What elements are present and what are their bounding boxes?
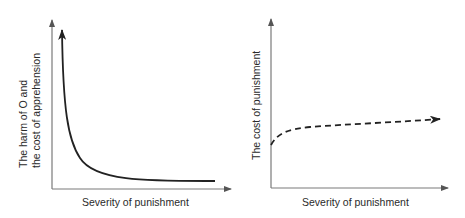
harm-cost-curve — [62, 30, 215, 181]
left-x-label: Severity of punishment — [82, 196, 189, 208]
right-y-label: The cost of punishment — [250, 51, 262, 160]
right-x-label: Severity of punishment — [302, 196, 409, 208]
punishment-cost-curve — [271, 119, 440, 145]
left-panel: The harm of O and the cost of apprehensi… — [17, 20, 231, 208]
left-y-label: The harm of O and — [17, 80, 29, 168]
right-panel: The cost of punishment Severity of punis… — [250, 19, 448, 208]
left-y-label-2: the cost of apprehension — [30, 53, 42, 168]
figure: The harm of O and the cost of apprehensi… — [0, 0, 465, 218]
